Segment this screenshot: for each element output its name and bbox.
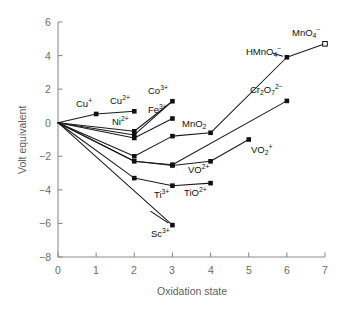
data-point-marker — [132, 136, 137, 141]
data-point-marker — [208, 181, 213, 186]
y-tick-label: −4 — [39, 184, 51, 196]
chart-canvas — [0, 0, 352, 309]
point-label: Ti3+ — [154, 190, 169, 200]
point-label: MnO2 — [182, 119, 206, 129]
data-point-marker — [170, 116, 175, 121]
x-tick-label: 4 — [208, 264, 214, 276]
y-tick-label: 4 — [45, 50, 51, 62]
x-tick-label: 2 — [131, 264, 137, 276]
data-point-marker — [246, 137, 251, 142]
point-label: Cu+ — [76, 99, 92, 109]
data-point-marker — [94, 112, 99, 117]
x-tick-label: 1 — [93, 264, 99, 276]
data-point-marker — [285, 99, 290, 104]
data-point-marker — [208, 130, 213, 135]
data-point-marker — [170, 163, 175, 168]
volt-equivalent-diagram: 01234567−8−6−4−20246 Oxidation state Vol… — [0, 0, 352, 309]
point-label: Cr2O72− — [250, 85, 283, 95]
point-label: Fe3+ — [148, 105, 167, 115]
x-tick-label: 3 — [169, 264, 175, 276]
x-tick-label: 6 — [284, 264, 290, 276]
data-point-marker — [170, 99, 175, 104]
data-point-marker — [132, 159, 137, 164]
data-point-marker — [132, 109, 137, 114]
point-label: VO2+ — [251, 145, 273, 155]
data-point-marker — [132, 154, 137, 159]
point-label: HMnO4− — [246, 47, 281, 57]
data-point-marker — [132, 176, 137, 181]
data-point-marker — [285, 55, 290, 60]
data-point-marker — [170, 134, 175, 139]
y-tick-label: −6 — [39, 217, 51, 229]
point-label: VO2+ — [188, 165, 209, 175]
x-tick-label: 5 — [246, 264, 252, 276]
point-label: Ni2+ — [112, 117, 129, 127]
point-label: Co3+ — [148, 86, 168, 96]
point-label: Cu2+ — [110, 96, 130, 106]
point-label: Sc3+ — [151, 229, 170, 239]
data-point-marker — [170, 183, 175, 188]
point-label: TiO2+ — [184, 188, 207, 198]
x-tick-label: 0 — [55, 264, 61, 276]
y-tick-label: 0 — [45, 117, 51, 129]
series-line-cr — [58, 101, 287, 165]
y-axis-title: Volt equivalent — [16, 106, 28, 174]
x-tick-label: 7 — [322, 264, 328, 276]
y-tick-label: −8 — [39, 251, 51, 263]
y-tick-label: −2 — [39, 150, 51, 162]
y-tick-label: 2 — [45, 83, 51, 95]
data-point-marker — [323, 42, 328, 47]
x-axis-title: Oxidation state — [157, 285, 227, 297]
point-label: MnO4− — [292, 28, 320, 38]
data-point-marker — [170, 223, 175, 228]
series-line-sc — [58, 123, 172, 225]
y-tick-label: 6 — [45, 16, 51, 28]
